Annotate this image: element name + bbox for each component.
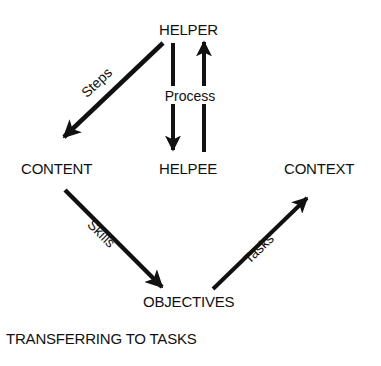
node-context: CONTEXT	[284, 160, 354, 177]
diagram-canvas: Steps Process Skills Tasks	[0, 0, 381, 366]
node-content: CONTENT	[21, 160, 92, 177]
process-label: Process	[165, 88, 216, 104]
tasks-label: Tasks	[240, 230, 277, 266]
diagram-caption: TRANSFERRING TO TASKS	[6, 330, 197, 347]
node-helpee: HELPEE	[159, 160, 217, 177]
node-objectives: OBJECTIVES	[143, 293, 234, 310]
transfer-diagram: Steps Process Skills Tasks HELPER HELPEE…	[0, 0, 381, 366]
skills-label: Skills	[84, 216, 118, 250]
node-helper: HELPER	[159, 21, 218, 38]
